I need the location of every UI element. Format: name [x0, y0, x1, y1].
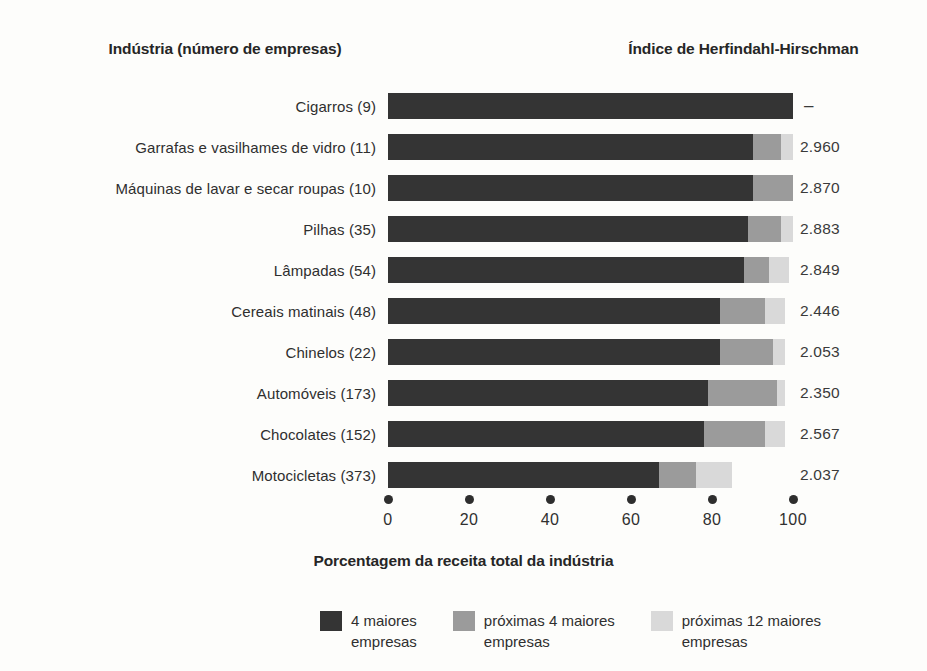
chart-legend: 4 maiores empresaspróximas 4 maiores emp…	[320, 610, 920, 652]
hhi-value: 2.960	[800, 138, 910, 156]
category-label: Lâmpadas (54)	[20, 261, 376, 278]
hhi-value: –	[800, 96, 914, 116]
chart-figure: Indústria (número de empresas) Índice de…	[0, 0, 927, 671]
tick-dot-icon	[465, 495, 474, 504]
legend-item: 4 maiores empresas	[320, 610, 417, 652]
next4-segment	[753, 134, 781, 160]
top4-segment	[388, 380, 708, 406]
tick-dot-icon	[708, 495, 717, 504]
top4-segment	[388, 175, 753, 201]
column-headers: Indústria (número de empresas) Índice de…	[0, 40, 927, 66]
next12-segment	[781, 216, 793, 242]
hhi-value: 2.567	[800, 425, 910, 443]
next4-segment	[720, 339, 773, 365]
hhi-value: 2.350	[800, 384, 910, 402]
bar-row: Motocicletas (373)2.037	[0, 454, 927, 495]
x-axis: 020406080100	[388, 495, 793, 541]
next12-segment	[773, 339, 785, 365]
category-label: Garrafas e vasilhames de vidro (11)	[20, 138, 376, 155]
x-tick: 100	[770, 495, 816, 529]
tick-dot-icon	[789, 495, 798, 504]
stacked-bar	[388, 421, 793, 447]
bar-row: Chocolates (152)2.567	[0, 413, 927, 454]
stacked-bar	[388, 175, 793, 201]
hhi-value: 2.037	[800, 466, 910, 484]
category-label: Motocicletas (373)	[20, 466, 376, 483]
next4-segment	[659, 462, 695, 488]
top4-segment	[388, 93, 793, 119]
legend-label: próximas 12 maiores empresas	[682, 610, 821, 652]
x-axis-label: Porcentagem da receita total da indústri…	[0, 552, 927, 570]
bar-row: Máquinas de lavar e secar roupas (10)2.8…	[0, 167, 927, 208]
x-tick: 40	[527, 495, 573, 529]
legend-item: próximas 4 maiores empresas	[453, 610, 615, 652]
stacked-bar	[388, 380, 793, 406]
hhi-value: 2.053	[800, 343, 910, 361]
hhi-value: 2.870	[800, 179, 910, 197]
next4-segment	[748, 216, 780, 242]
legend-label: próximas 4 maiores empresas	[484, 610, 615, 652]
top4-segment	[388, 216, 748, 242]
top4-segment	[388, 257, 744, 283]
x-tick: 20	[446, 495, 492, 529]
tick-dot-icon	[384, 495, 393, 504]
category-label: Máquinas de lavar e secar roupas (10)	[20, 179, 376, 196]
x-tick: 60	[608, 495, 654, 529]
top4-segment	[388, 134, 753, 160]
top4-segment	[388, 421, 704, 447]
bar-row: Cigarros (9)–	[0, 85, 927, 126]
x-tick-label: 20	[446, 511, 492, 529]
category-label: Cigarros (9)	[20, 97, 376, 114]
next12-segment	[765, 298, 785, 324]
category-label: Automóveis (173)	[20, 384, 376, 401]
category-label: Chinelos (22)	[20, 343, 376, 360]
category-label: Pilhas (35)	[20, 220, 376, 237]
top4-segment	[388, 462, 659, 488]
x-tick-label: 60	[608, 511, 654, 529]
legend-label: 4 maiores empresas	[351, 610, 417, 652]
next4-segment	[708, 380, 777, 406]
stacked-bar	[388, 462, 793, 488]
next12-segment	[777, 380, 785, 406]
next4-segment	[744, 257, 768, 283]
hhi-value: 2.883	[800, 220, 910, 238]
bar-row: Garrafas e vasilhames de vidro (11)2.960	[0, 126, 927, 167]
stacked-bar	[388, 298, 793, 324]
top4-segment	[388, 339, 720, 365]
hhi-value: 2.849	[800, 261, 910, 279]
category-label: Cereais matinais (48)	[20, 302, 376, 319]
x-tick-label: 100	[770, 511, 816, 529]
stacked-bar	[388, 134, 793, 160]
next12-segment	[769, 257, 789, 283]
x-tick-label: 80	[689, 511, 735, 529]
bar-rows: Cigarros (9)–Garrafas e vasilhames de vi…	[0, 85, 927, 495]
top4-segment	[388, 298, 720, 324]
bar-row: Pilhas (35)2.883	[0, 208, 927, 249]
bar-row: Automóveis (173)2.350	[0, 372, 927, 413]
next4-swatch	[453, 611, 475, 631]
hhi-column-header: Índice de Herfindahl-Hirschman	[560, 40, 927, 58]
x-tick-label: 0	[365, 511, 411, 529]
next12-swatch	[651, 611, 673, 631]
hhi-value: 2.446	[800, 302, 910, 320]
next4-segment	[704, 421, 765, 447]
category-label: Chocolates (152)	[20, 425, 376, 442]
next12-segment	[781, 134, 793, 160]
bar-row: Chinelos (22)2.053	[0, 331, 927, 372]
tick-dot-icon	[627, 495, 636, 504]
tick-dot-icon	[546, 495, 555, 504]
next12-segment	[765, 421, 785, 447]
industry-column-header: Indústria (número de empresas)	[60, 40, 390, 58]
bar-row: Cereais matinais (48)2.446	[0, 290, 927, 331]
bar-row: Lâmpadas (54)2.849	[0, 249, 927, 290]
x-tick: 0	[365, 495, 411, 529]
stacked-bar	[388, 257, 793, 283]
x-tick: 80	[689, 495, 735, 529]
stacked-bar	[388, 93, 793, 119]
next4-segment	[753, 175, 794, 201]
top4-swatch	[320, 611, 342, 631]
x-tick-label: 40	[527, 511, 573, 529]
next12-segment	[696, 462, 732, 488]
legend-item: próximas 12 maiores empresas	[651, 610, 821, 652]
stacked-bar	[388, 216, 793, 242]
